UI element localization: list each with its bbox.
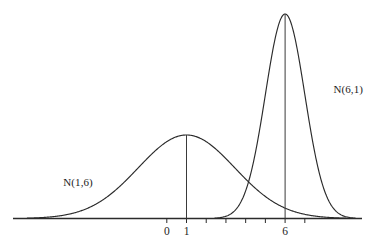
tick-label-1: 1 [184,225,190,237]
tick-label-0: 0 [164,225,170,237]
tick-label-6: 6 [282,225,288,237]
label-narrow-curve: N(6,1) [333,83,363,96]
distribution-plot: 0 1 6 N(1,6) N(6,1) [0,0,370,244]
normal-distribution-figure: 0 1 6 N(1,6) N(6,1) [0,0,370,244]
label-wide-curve: N(1,6) [63,176,93,189]
